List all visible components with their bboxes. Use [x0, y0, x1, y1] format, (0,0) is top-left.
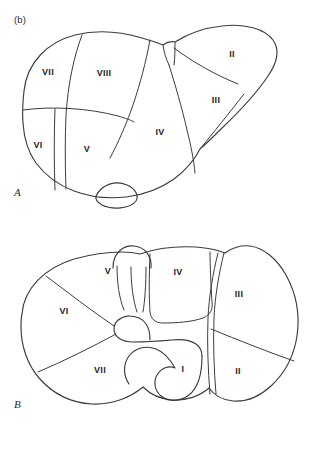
falciform-notch-a	[163, 45, 169, 65]
segment-label-b-i: I	[182, 364, 185, 374]
liver-segments-figure: (b) VII VII	[0, 0, 314, 471]
fissure-right-vertical-b-inner	[208, 253, 218, 394]
segment-label-viii: VIII	[97, 68, 112, 78]
segment-label-iv: IV	[155, 127, 164, 137]
divider-vii-viii	[65, 35, 82, 189]
ivc-loop-b	[113, 246, 151, 268]
fissure-right-vertical-b	[214, 253, 224, 394]
segment-label-v: V	[84, 144, 90, 154]
divider-viii-iv	[110, 40, 150, 158]
segment-label-vi: VI	[33, 140, 42, 150]
fissure-right-b	[143, 267, 146, 312]
segment-label-b-vii: VII	[94, 365, 106, 375]
gallbladder-a	[96, 183, 137, 208]
panel-b-drawing: V IV III VI VII I II	[0, 228, 314, 428]
divider-iii-lower	[200, 94, 244, 149]
segment-label-b-vi: VI	[59, 306, 68, 316]
segment-label-b-iii: III	[235, 289, 243, 299]
divider-v-vi-b	[46, 276, 114, 326]
segment-label-vii: VII	[42, 67, 54, 77]
segment-label-iii: III	[212, 95, 220, 105]
falciform-notch-a-right	[174, 42, 175, 65]
panel-a-letter: A	[14, 186, 21, 198]
panel-a-drawing: VII VIII II III VI V IV	[0, 18, 314, 218]
liver-outline-b	[21, 246, 298, 404]
fissure-left-b	[117, 266, 124, 310]
panel-b-letter: B	[14, 398, 21, 410]
panel-b-inferior-view: V IV III VI VII I II	[0, 228, 314, 428]
panel-a-anterior-view: VII VIII II III VI V IV	[0, 18, 314, 218]
divider-horizontal-a	[23, 108, 134, 122]
segment-label-b-v: V	[105, 266, 111, 276]
segment-iv-border-b	[149, 252, 212, 323]
porta-hepatis-b-lower	[128, 316, 150, 340]
segment-label-b-iv: IV	[173, 267, 182, 277]
segment-label-ii: II	[229, 49, 235, 59]
fissure-middle-b	[131, 267, 137, 312]
divider-vi-v	[54, 109, 55, 190]
segment-label-b-ii: II	[235, 366, 241, 376]
divider-iv-ii-iii	[169, 65, 195, 173]
liver-outline-a	[23, 25, 277, 198]
divider-iii-ii-b	[211, 329, 294, 361]
